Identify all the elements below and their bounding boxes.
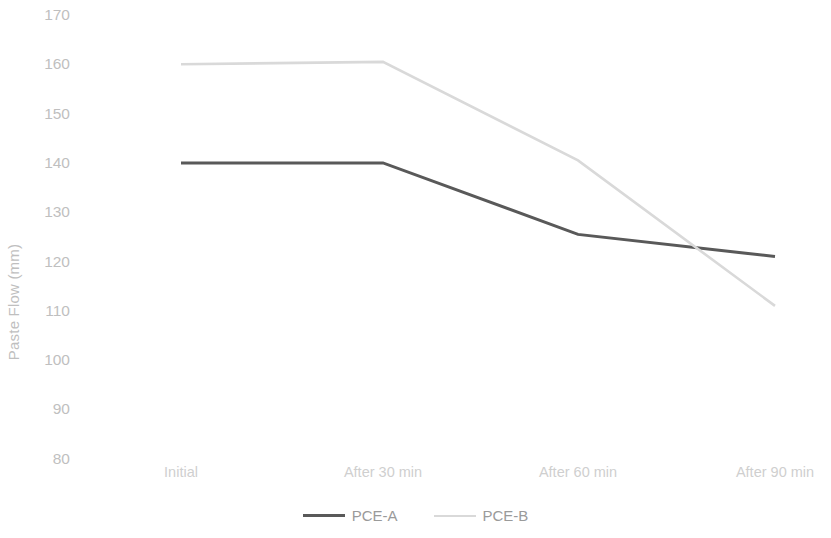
legend-entry-pce-a[interactable]: PCE-A bbox=[303, 508, 398, 523]
series-line-pce-a bbox=[181, 163, 775, 257]
series-line-pce-b bbox=[181, 62, 775, 306]
legend-swatch-icon bbox=[434, 515, 476, 517]
line-chart: Paste Flow (mm) 170160150140130120110100… bbox=[0, 0, 831, 538]
chart-legend: PCE-APCE-B bbox=[0, 508, 831, 523]
legend-entry-pce-b[interactable]: PCE-B bbox=[434, 508, 529, 523]
legend-label: PCE-A bbox=[352, 508, 398, 523]
plot-area bbox=[0, 0, 831, 538]
legend-swatch-icon bbox=[303, 514, 345, 517]
legend-label: PCE-B bbox=[483, 508, 529, 523]
